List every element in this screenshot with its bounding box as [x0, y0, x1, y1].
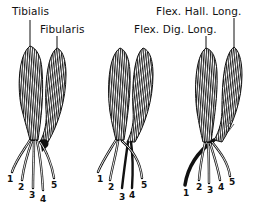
tendon-number: 2 [196, 182, 202, 192]
tendon-number: 4 [218, 182, 224, 192]
label-tibialis: Tibialis [12, 5, 49, 17]
right-figure [185, 47, 242, 185]
tendon-number: 4 [40, 194, 46, 204]
left-figure [12, 46, 66, 190]
tendon-number: 1 [7, 174, 13, 184]
tendon-number: 5 [51, 180, 57, 190]
label-fibularis: Fibularis [40, 23, 84, 35]
tendon-number: 2 [18, 182, 24, 192]
tendon-number: 1 [97, 174, 103, 184]
tendon-number: 2 [108, 182, 114, 192]
tendon-number: 3 [29, 190, 35, 200]
label-flex-dig-long: Flex. Dig. Long. [134, 23, 217, 35]
tendon-number: 3 [207, 185, 213, 195]
tendon-number: 1 [183, 188, 189, 198]
tendon-number: 5 [141, 180, 147, 190]
tendon-number: 5 [229, 177, 235, 187]
tendon-number: 4 [129, 190, 135, 200]
label-flex-hall-long: Flex. Hall. Long. [156, 5, 241, 17]
tendon-number: 3 [119, 192, 125, 202]
middle-figure [98, 48, 153, 188]
